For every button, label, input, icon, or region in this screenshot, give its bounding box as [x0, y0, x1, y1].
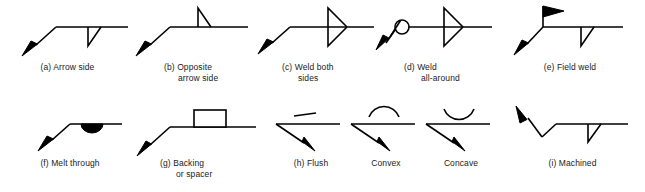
- fillet-triangle-below: [581, 27, 594, 46]
- panel-weld-both-sides: (c) Weld bothsides: [252, 0, 382, 92]
- arrowhead-icon: [22, 41, 38, 56]
- panel-contour-concave: Concave: [422, 100, 500, 192]
- arrowhead-icon: [38, 136, 54, 151]
- symbol-contour-flush: [272, 100, 350, 156]
- leader-line: [150, 27, 170, 45]
- fillet-triangle-above: [198, 8, 211, 27]
- panel-caption: Concave: [422, 158, 500, 169]
- symbol-melt-through: [0, 100, 140, 156]
- panel-contour-convex: Convex: [347, 100, 425, 192]
- backing-rectangle: [194, 110, 226, 127]
- arrowhead-icon: [516, 106, 527, 123]
- fillet-triangle-below: [444, 27, 463, 46]
- arrowhead-icon: [514, 40, 529, 55]
- melt-through-half-disc-icon: [81, 124, 103, 133]
- panel-caption: (b) Oppositearrow side: [164, 62, 259, 83]
- arrowhead-icon: [452, 137, 465, 151]
- symbol-backing-or-spacer: [138, 100, 278, 156]
- symbol-contour-convex: [347, 100, 425, 156]
- leader-line: [527, 27, 543, 44]
- leader-line: [272, 27, 290, 43]
- arrowhead-icon: [258, 39, 274, 54]
- symbol-fillet-weld-other-side: [128, 0, 258, 60]
- panel-arrow-side: (a) Arrow side: [0, 0, 135, 92]
- symbol-field-weld: [495, 0, 645, 60]
- leader-line-lower: [542, 124, 556, 137]
- leader-line: [276, 124, 304, 143]
- welding-symbols-figure: (a) Arrow side (b) Oppositearrow side (c…: [0, 0, 645, 192]
- panel-caption: (f) Melt through: [0, 158, 140, 169]
- arrowhead-icon: [136, 41, 152, 56]
- arrowhead-icon: [302, 137, 315, 151]
- leader-line: [36, 27, 56, 45]
- field-weld-flag-icon: [543, 6, 564, 17]
- panel-caption: (c) Weld bothsides: [282, 62, 382, 83]
- panel-caption: (g) Backingor spacer: [160, 158, 260, 179]
- concave-arc-icon: [444, 109, 474, 119]
- symbol-machined-finish: [500, 100, 645, 156]
- leader-line: [52, 124, 70, 140]
- leader-line: [351, 124, 379, 143]
- panel-backing-or-spacer: (g) Backingor spacer: [138, 100, 278, 192]
- fillet-triangle-below: [328, 27, 347, 46]
- panel-caption: Convex: [347, 158, 425, 169]
- panel-melt-through: (f) Melt through: [0, 100, 140, 192]
- panel-caption: (d) Weldall-around: [404, 62, 502, 83]
- fillet-triangle-below: [588, 124, 601, 142]
- panel-caption: (e) Field weld: [495, 62, 645, 73]
- fillet-triangle-below: [88, 27, 101, 46]
- fillet-triangle-above: [328, 8, 347, 27]
- leader-line-upper: [528, 118, 542, 137]
- panel-contour-flush: (h) Flush: [272, 100, 350, 192]
- arrowhead-icon: [377, 137, 390, 151]
- fillet-triangle-above: [444, 8, 463, 27]
- panel-caption: (a) Arrow side: [0, 62, 135, 73]
- symbol-fillet-weld-both-sides: [252, 0, 382, 60]
- convex-arc-icon: [369, 107, 399, 117]
- symbol-weld-all-around: [374, 0, 502, 60]
- flush-bar-icon: [294, 113, 316, 116]
- leader-line: [150, 127, 170, 145]
- symbol-contour-concave: [422, 100, 500, 156]
- panel-opposite-arrow-side: (b) Oppositearrow side: [128, 0, 258, 92]
- panel-caption: (i) Machined: [500, 158, 645, 169]
- leader-line: [426, 124, 454, 143]
- panel-machined: (i) Machined: [500, 100, 645, 192]
- panel-weld-all-around: (d) Weldall-around: [374, 0, 502, 92]
- arrowhead-icon: [137, 141, 152, 156]
- panel-field-weld: (e) Field weld: [495, 0, 645, 92]
- panel-caption: (h) Flush: [272, 158, 350, 169]
- symbol-fillet-weld-arrow-side: [0, 0, 135, 60]
